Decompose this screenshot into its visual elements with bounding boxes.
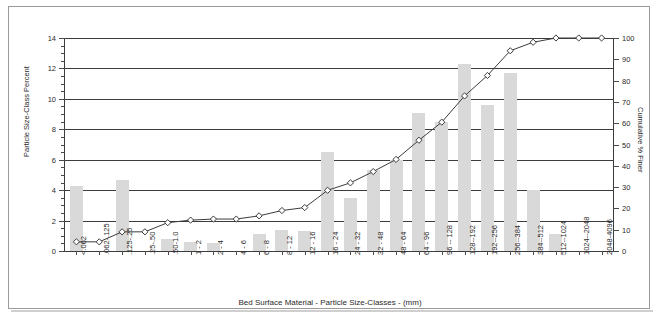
x-axis-tick <box>122 251 123 255</box>
left-axis-tick-label: 12 <box>48 64 56 73</box>
right-axis-tick-label: 70 <box>622 97 630 106</box>
right-axis-tick <box>613 145 619 146</box>
x-axis-tick <box>579 251 580 255</box>
plot-area: 02468101214 0102030405060708090100 <box>65 38 613 251</box>
line-marker <box>576 35 582 41</box>
line-marker <box>279 207 285 213</box>
secondary-y-axis-title: Cumulative % Finer <box>636 107 645 172</box>
x-axis-tick-label: 2048-4096 <box>605 219 614 255</box>
line-marker <box>165 220 171 226</box>
left-axis-tick-label: 6 <box>52 155 56 164</box>
x-axis-tick-label: 64 - 96 <box>422 232 431 255</box>
x-axis-tick <box>145 251 146 255</box>
x-axis-tick-label: 384--512 <box>536 225 545 255</box>
right-axis-tick <box>613 81 619 82</box>
x-axis-tick <box>213 251 214 255</box>
line-marker <box>553 35 559 41</box>
x-axis-tick <box>76 251 77 255</box>
right-axis-tick-label: 0 <box>622 247 626 256</box>
x-axis-tick <box>510 251 511 255</box>
x-axis-tick <box>465 251 466 255</box>
x-axis-title: Bed Surface Material - Particle Size-Cla… <box>9 298 651 307</box>
x-axis-tick-label: 4 - 6 <box>239 240 248 255</box>
x-axis-tick-label: 512--1024 <box>559 221 568 255</box>
x-axis-tick-label: 2 - 4 <box>216 240 225 255</box>
x-axis-tick <box>419 251 420 255</box>
x-axis-tick-label: 48 - 64 <box>399 232 408 255</box>
x-axis-tick <box>259 251 260 255</box>
x-axis-tick <box>602 251 603 255</box>
left-axis-tick <box>59 251 65 252</box>
right-axis-tick <box>613 59 619 60</box>
left-axis-tick-label: 4 <box>52 186 56 195</box>
line-marker <box>187 217 193 223</box>
right-axis-tick <box>613 102 619 103</box>
right-axis-tick-label: 100 <box>622 34 635 43</box>
x-axis-tick-label: .50-1.0 <box>171 232 180 255</box>
line-marker <box>210 216 216 222</box>
right-axis-tick <box>613 123 619 124</box>
cumulative-line <box>76 38 601 242</box>
chart-frame: Particle Size-Class Percent Cumulative %… <box>8 6 650 309</box>
left-axis-tick-label: 8 <box>52 125 56 134</box>
x-axis-tick <box>236 251 237 255</box>
x-axis-tick-label: <.062 <box>79 236 88 255</box>
x-axis-tick <box>556 251 557 255</box>
x-axis-tick <box>442 251 443 255</box>
line-marker <box>370 168 376 174</box>
right-axis-tick <box>613 187 619 188</box>
x-axis-tick <box>282 251 283 255</box>
right-axis-tick-label: 10 <box>622 225 630 234</box>
right-axis-tick-label: 30 <box>622 183 630 192</box>
x-axis-tick-label: 6 - 8 <box>262 240 271 255</box>
right-axis-tick <box>613 208 619 209</box>
x-axis-tick <box>328 251 329 255</box>
line-marker <box>256 213 262 219</box>
right-axis-tick <box>613 166 619 167</box>
x-axis-tick-label: 256--384 <box>513 225 522 255</box>
x-axis-tick-label: 12 - 16 <box>308 232 317 255</box>
line-marker <box>233 216 239 222</box>
x-axis-tick-label: .25-.50 <box>148 232 157 255</box>
x-axis-tick-label: 16 - 24 <box>331 232 340 255</box>
x-axis-tick-label: 1 - 2 <box>194 240 203 255</box>
x-axis-tick-label: 96 -- 128 <box>445 225 454 255</box>
cumulative-line-series <box>65 38 613 251</box>
x-axis-tick-label: 8 - 12 <box>285 236 294 255</box>
y-axis-title: Particle Size-Class Percent <box>22 66 31 157</box>
line-marker <box>347 180 353 186</box>
left-axis-tick-label: 0 <box>52 247 56 256</box>
line-marker <box>530 39 536 45</box>
x-axis-tick <box>99 251 100 255</box>
x-axis-tick <box>396 251 397 255</box>
right-axis-tick-label: 60 <box>622 119 630 128</box>
x-axis-tick <box>350 251 351 255</box>
x-axis-tick <box>533 251 534 255</box>
x-axis-tick <box>373 251 374 255</box>
right-axis-tick-label: 20 <box>622 204 630 213</box>
right-axis-tick-label: 40 <box>622 161 630 170</box>
x-axis-tick-label: 128--192 <box>468 225 477 255</box>
right-axis-tick-label: 90 <box>622 55 630 64</box>
x-axis-tick-label: 24 - 32 <box>353 232 362 255</box>
left-axis-tick-label: 2 <box>52 216 56 225</box>
right-axis-tick-label: 50 <box>622 140 630 149</box>
x-axis-tick-label: .062-.125 <box>102 223 111 255</box>
right-axis-tick-label: 80 <box>622 76 630 85</box>
x-axis-tick-label: .125-.25 <box>125 227 134 255</box>
left-axis-tick-label: 10 <box>48 94 56 103</box>
line-marker <box>598 35 604 41</box>
x-axis-tick <box>487 251 488 255</box>
x-axis-tick <box>168 251 169 255</box>
right-axis-tick <box>613 38 619 39</box>
x-axis-tick-label: 192--256 <box>490 225 499 255</box>
x-axis-tick-label: 1024--2048 <box>582 217 591 255</box>
x-axis-tick-label: 32 - 48 <box>376 232 385 255</box>
x-axis-tick <box>305 251 306 255</box>
left-axis-tick-label: 14 <box>48 34 56 43</box>
x-axis-tick <box>191 251 192 255</box>
